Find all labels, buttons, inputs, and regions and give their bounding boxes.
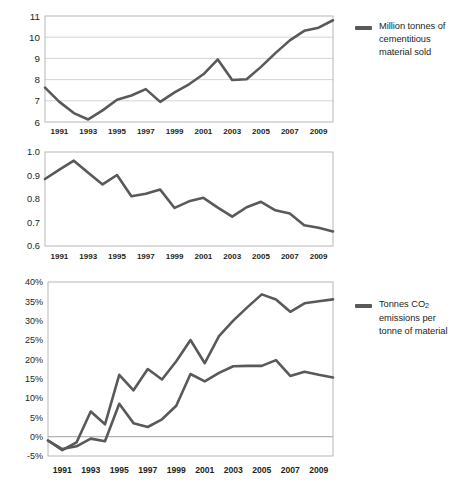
svg-text:2005: 2005 xyxy=(252,127,270,136)
chart-panel-cementitious-material: 6789101119911993199519971999200120032005… xyxy=(0,0,456,140)
svg-text:2001: 2001 xyxy=(195,465,214,475)
legend-cementitious-material: Million tonnes of cementitious material … xyxy=(355,20,456,60)
svg-text:1993: 1993 xyxy=(79,127,97,136)
svg-text:1999: 1999 xyxy=(166,252,184,261)
svg-text:2003: 2003 xyxy=(224,465,243,475)
svg-text:20%: 20% xyxy=(25,355,43,365)
svg-text:1995: 1995 xyxy=(108,127,126,136)
svg-text:1999: 1999 xyxy=(167,465,186,475)
chart-panel-fuel-power-reduction: -5%0%5%10%15%20%25%30%35%40%199119931995… xyxy=(0,266,456,490)
svg-text:11: 11 xyxy=(30,11,40,22)
svg-text:1995: 1995 xyxy=(110,465,129,475)
svg-text:7: 7 xyxy=(35,95,40,106)
svg-text:2009: 2009 xyxy=(309,465,328,475)
svg-text:2005: 2005 xyxy=(252,465,271,475)
svg-text:1.0: 1.0 xyxy=(27,147,40,157)
svg-text:5%: 5% xyxy=(30,413,43,423)
svg-text:2009: 2009 xyxy=(310,127,328,136)
svg-text:0.6: 0.6 xyxy=(27,241,40,251)
svg-text:10: 10 xyxy=(29,32,40,43)
svg-text:1991: 1991 xyxy=(51,252,69,261)
legend-swatch-icon xyxy=(355,26,372,30)
svg-text:2005: 2005 xyxy=(252,252,270,261)
svg-text:6: 6 xyxy=(35,117,41,128)
svg-text:1993: 1993 xyxy=(81,465,100,475)
svg-text:1991: 1991 xyxy=(51,127,69,136)
svg-text:0%: 0% xyxy=(30,432,43,442)
svg-text:1999: 1999 xyxy=(166,127,184,136)
svg-text:2001: 2001 xyxy=(195,127,213,136)
svg-text:1995: 1995 xyxy=(108,252,126,261)
svg-text:0.7: 0.7 xyxy=(27,218,40,228)
svg-text:1997: 1997 xyxy=(137,252,155,261)
svg-text:2007: 2007 xyxy=(281,127,299,136)
svg-text:25%: 25% xyxy=(25,335,43,345)
svg-text:0.8: 0.8 xyxy=(27,194,40,204)
svg-text:10%: 10% xyxy=(25,393,43,403)
chart-svg-co2-emissions: 0.60.70.80.91.01991199319951997199920012… xyxy=(0,140,456,266)
svg-text:2001: 2001 xyxy=(195,252,213,261)
svg-text:0.9: 0.9 xyxy=(27,171,40,181)
svg-text:2003: 2003 xyxy=(223,127,241,136)
svg-text:1991: 1991 xyxy=(53,465,72,475)
svg-text:9: 9 xyxy=(35,53,40,64)
svg-text:15%: 15% xyxy=(25,374,43,384)
chart-panel-co2-emissions: 0.60.70.80.91.01991199319951997199920012… xyxy=(0,140,456,266)
svg-text:35%: 35% xyxy=(25,297,43,307)
svg-text:8: 8 xyxy=(35,74,41,85)
svg-text:2009: 2009 xyxy=(310,252,328,261)
svg-text:-5%: -5% xyxy=(27,451,43,461)
svg-text:30%: 30% xyxy=(25,316,43,326)
svg-text:2007: 2007 xyxy=(281,252,299,261)
chart-svg-fuel-power-reduction: -5%0%5%10%15%20%25%30%35%40%199119931995… xyxy=(0,266,456,490)
svg-text:1997: 1997 xyxy=(137,127,155,136)
svg-text:1993: 1993 xyxy=(79,252,97,261)
svg-text:40%: 40% xyxy=(25,277,43,287)
legend-label-cementitious-material: Million tonnes of cementitious material … xyxy=(379,20,456,60)
svg-text:1997: 1997 xyxy=(138,465,157,475)
svg-text:2003: 2003 xyxy=(223,252,241,261)
svg-text:2007: 2007 xyxy=(281,465,300,475)
